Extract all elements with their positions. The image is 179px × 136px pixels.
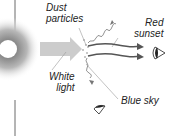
transmitted-ray-2 — [88, 54, 140, 57]
label-dust-line2: particles — [46, 13, 83, 24]
scattered-ray-down — [86, 58, 91, 78]
label-blue-sky: Blue sky — [121, 95, 159, 106]
label-red-line1: Red — [134, 17, 163, 28]
label-red-line2: sunset — [134, 28, 163, 39]
leader-red-sunset — [112, 38, 118, 47]
white-light-beam-arrow — [40, 37, 82, 61]
dust-particles — [82, 39, 88, 57]
scattering-diagram: Dust particles Red sunset White light Bl… — [0, 0, 179, 136]
transmitted-ray-1 — [88, 44, 140, 47]
label-white-line2: light — [49, 82, 75, 93]
label-dust-particles: Dust particles — [46, 2, 83, 24]
transmitted-ray-1-head — [137, 43, 144, 50]
label-dust-line1: Dust — [46, 2, 83, 13]
eye-sunset-icon — [153, 47, 165, 59]
label-white-line1: White — [49, 71, 75, 82]
scattered-ray-up — [88, 23, 116, 43]
eye-blue-sky-icon — [94, 105, 105, 114]
leader-dust — [79, 28, 86, 45]
transmitted-ray-2-head — [137, 53, 144, 60]
scattered-ray-down-head — [89, 80, 94, 85]
label-white-light: White light — [49, 71, 75, 93]
label-red-sunset: Red sunset — [134, 17, 163, 39]
